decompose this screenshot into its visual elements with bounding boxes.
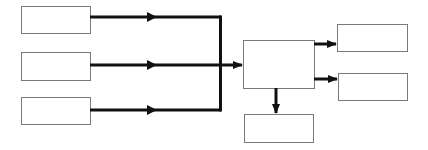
- arrowhead-icon: [147, 105, 157, 115]
- center-box: [244, 41, 315, 89]
- flow-diagram: [0, 0, 428, 150]
- input-connectors: [90, 16, 221, 112]
- input-box-3: [22, 98, 91, 125]
- arrowhead-icon: [147, 60, 157, 70]
- output-box-middle: [339, 74, 408, 101]
- input-box-2: [22, 53, 91, 81]
- arrowhead-icon: [147, 12, 157, 22]
- output-box-top: [338, 25, 408, 52]
- input-box-1: [22, 7, 91, 34]
- output-box-bottom: [245, 115, 314, 143]
